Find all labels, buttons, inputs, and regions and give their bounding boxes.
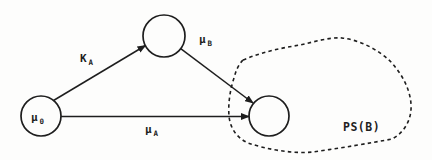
edge-mu-a-label: μ <box>145 123 152 136</box>
edge-mu-b-arrow <box>181 49 253 103</box>
node-target <box>249 96 289 136</box>
edge-mu-a-label-sub: A <box>154 129 159 138</box>
node-start-label-sub: 0 <box>40 117 45 126</box>
edge-ka-label: K <box>80 52 87 65</box>
edge-ka-arrow <box>54 46 146 101</box>
edge-mu-b-label: μ <box>199 33 206 46</box>
node-intermediate <box>143 15 185 57</box>
node-start <box>21 96 61 136</box>
diagram-figure: μ 0 K A μ B μ A PS(B) <box>0 0 432 160</box>
edge-ka-label-sub: A <box>89 58 94 67</box>
region-ps-b-label: PS(B) <box>343 120 380 134</box>
node-start-label: μ <box>31 111 38 124</box>
region-ps-b-boundary <box>229 38 411 153</box>
diagram-canvas: μ 0 K A μ B μ A PS(B) <box>0 0 432 160</box>
edge-mu-b-label-sub: B <box>208 39 213 48</box>
